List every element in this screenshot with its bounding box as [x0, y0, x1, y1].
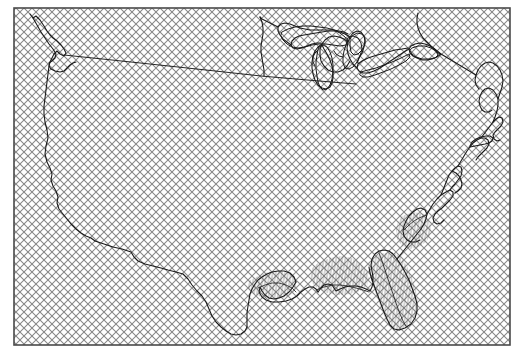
us-map-canvas	[0, 0, 523, 358]
map-figure-page	[0, 0, 523, 358]
